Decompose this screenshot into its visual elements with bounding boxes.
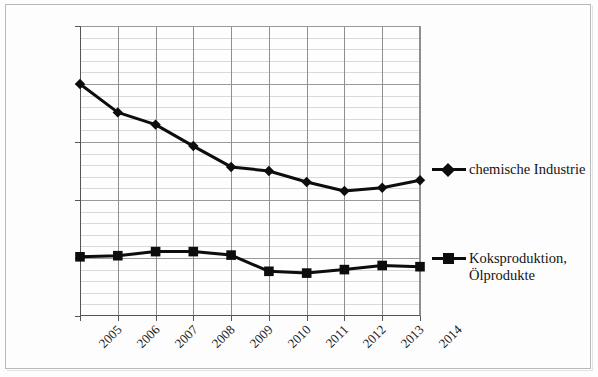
data-point-marker (301, 177, 311, 187)
x-axis-tick (382, 316, 383, 321)
data-point-marker (377, 261, 387, 271)
data-point-marker (113, 251, 123, 261)
x-axis-tick (269, 316, 270, 321)
x-axis-tick (118, 316, 119, 321)
x-axis-tick (344, 316, 345, 321)
data-point-marker (75, 252, 85, 262)
legend-marker-square-icon (432, 250, 466, 266)
series-line-1 (80, 252, 420, 274)
data-point-marker (226, 250, 236, 260)
x-axis-tick (420, 316, 421, 321)
data-point-marker (264, 267, 274, 277)
data-point-marker (189, 247, 199, 257)
x-axis-tick (231, 316, 232, 321)
x-axis-tick (307, 316, 308, 321)
series-layer (80, 26, 420, 316)
gridline-vertical (420, 26, 421, 316)
chart-container: 05.00010.00015.00020.00025.000 200520062… (0, 0, 598, 377)
x-axis-tick (156, 316, 157, 321)
legend-marker-diamond-icon (432, 161, 466, 177)
data-point-marker (264, 166, 274, 176)
legend-item-chemische-industrie: chemische Industrie (432, 161, 585, 178)
data-point-marker (302, 268, 312, 278)
data-point-marker (340, 265, 350, 275)
data-point-marker (339, 186, 349, 196)
data-point-marker (151, 247, 161, 257)
x-axis-tick (80, 316, 81, 321)
series-line-0 (80, 84, 420, 191)
legend-label: Koksproduktion, Ölprodukte (469, 250, 567, 284)
x-axis-tick (193, 316, 194, 321)
plot-area (80, 26, 420, 316)
data-point-marker (415, 262, 425, 272)
legend-item-koksproduktion: Koksproduktion, Ölprodukte (432, 250, 567, 284)
data-point-marker (377, 183, 387, 193)
legend-label: chemische Industrie (469, 161, 585, 178)
